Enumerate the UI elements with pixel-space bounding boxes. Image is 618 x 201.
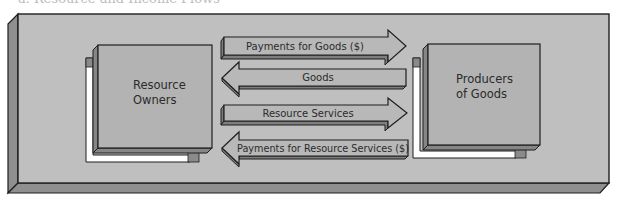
flow-label: Resource Services <box>262 108 353 119</box>
flow-label: Payments for Resource Services ($) <box>237 143 409 154</box>
circular-flow-diagram: ResourceOwners Producersof Goods Payment… <box>0 0 618 201</box>
node-resource-owners: ResourceOwners <box>86 45 212 162</box>
plate-left-side <box>8 14 18 193</box>
node-label: Producersof Goods <box>456 72 513 101</box>
flow-label: Goods <box>302 72 334 83</box>
flow-label: Payments for Goods ($) <box>246 41 364 52</box>
node-label-line: Resource <box>133 78 186 92</box>
box-left-side <box>423 44 428 150</box>
node-label-line: Producers <box>456 72 513 86</box>
box-bottom-side <box>423 145 540 150</box>
node-label-line: of Goods <box>456 87 507 101</box>
shadow-tab <box>86 58 93 67</box>
node-producers-of-goods: Producersof Goods <box>413 44 540 158</box>
box-left-side <box>93 45 98 153</box>
box-bottom-side <box>93 148 212 153</box>
plate-bottom-side <box>8 183 609 193</box>
shadow-tab <box>413 58 420 67</box>
node-label-line: Owners <box>133 93 177 107</box>
